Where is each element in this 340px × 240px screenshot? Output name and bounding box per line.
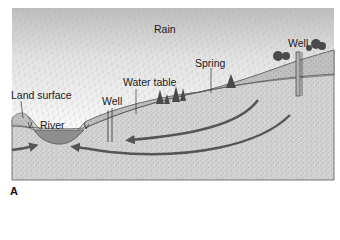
water-table-label: Water table (123, 77, 176, 88)
river-label: River (40, 120, 65, 131)
rain-label: Rain (154, 24, 176, 35)
land-surface-label: Land surface (11, 90, 72, 101)
well-right-label: Well (288, 38, 308, 49)
well-left-label: Well (102, 96, 122, 107)
panel-label: A (10, 185, 18, 197)
spring-label: Spring (195, 58, 225, 69)
